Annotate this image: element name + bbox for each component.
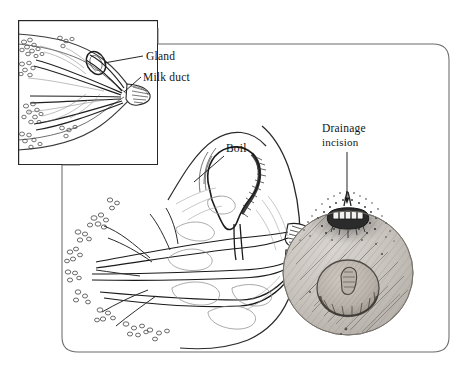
label-drainage-incision: Drainage incision [322,122,366,204]
gland-label-text: Gland [146,50,175,62]
drainage-incision-label-line1: Drainage [322,122,366,135]
illustration-canvas: Gland Milk duct Boil Drainage incision [0,0,458,373]
inset-detail-box [18,20,158,165]
boil-cavity [208,147,266,260]
medical-illustration-figure: Gland Milk duct Boil Drainage incision [0,0,458,373]
boil-label-text: Boil [226,142,247,154]
areola-and-nipple [317,260,379,317]
milk-duct-label-text: Milk duct [143,71,190,83]
drainage-incision-label-line2: incision [322,136,359,148]
frontal-breast-view [283,191,413,335]
